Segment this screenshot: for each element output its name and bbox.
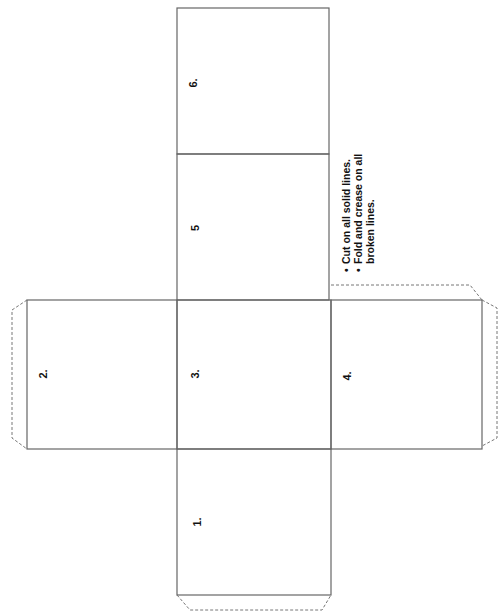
face-5-label: 5 xyxy=(189,225,201,231)
tab-face-4-right xyxy=(482,300,497,446)
instruction-cut: Cut on all solid lines. xyxy=(340,122,352,272)
face-4-outline xyxy=(331,300,482,449)
face-4-label: 4. xyxy=(341,371,353,380)
face-6-outline xyxy=(177,8,329,154)
tab-face-4-top xyxy=(331,285,482,300)
face-1-label: 1. xyxy=(191,517,203,526)
instruction-fold: Fold and crease on all broken lines. xyxy=(352,122,376,272)
instructions: Cut on all solid lines. Fold and crease … xyxy=(340,122,376,272)
face-2-label: 2. xyxy=(37,369,49,378)
face-3-label: 3. xyxy=(189,369,201,378)
face-2-outline xyxy=(27,300,177,449)
tab-face-2-left xyxy=(12,300,27,449)
cube-net-diagram xyxy=(0,0,502,612)
face-6-label: 6. xyxy=(187,78,199,87)
tab-face-1-bottom xyxy=(177,595,331,610)
